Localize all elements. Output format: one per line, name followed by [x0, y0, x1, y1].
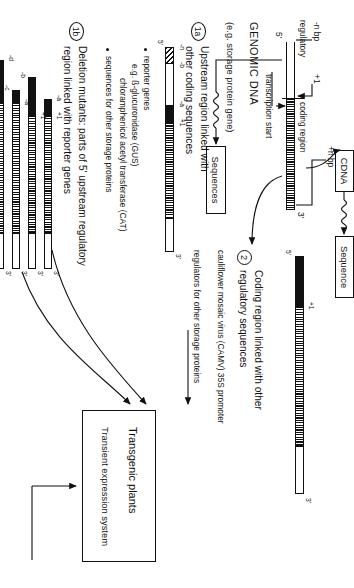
arrow-1a-to-outcome [52, 250, 146, 404]
arrow-1b-to-outcome [22, 272, 130, 404]
squiggle-regulatory [214, 92, 219, 128]
arrow-coding-to-branch2 [252, 176, 282, 244]
leader-plus-n-bp [296, 160, 326, 205]
squiggle-mrna [342, 200, 347, 230]
leader-plus-one [298, 84, 312, 96]
arrow-coding-to-cdna [306, 150, 340, 168]
